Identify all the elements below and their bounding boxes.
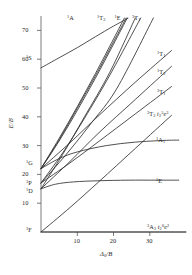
curve-0 (41, 18, 128, 68)
curve-label-right-1E: 1E (156, 178, 162, 184)
curve-label-top-3T1: 3T1 (132, 15, 140, 21)
curve-8 (41, 66, 172, 188)
curve-label-right-1T2: 1T2 (157, 69, 165, 75)
curve-label-right-3T2-config: 3T2t25e3 (147, 111, 169, 117)
free-ion-term-3F: 3F (26, 227, 32, 233)
free-ion-term-1D: 1D (26, 188, 33, 194)
term-symbol: G (28, 159, 33, 166)
curve-label-top-1T2: 1T2 (97, 15, 105, 21)
curve-1 (41, 18, 124, 169)
axis-lines (41, 16, 186, 232)
y-tick-label-40: 40 (22, 114, 29, 120)
tanabe-sugano-figure: E/B 10 20 30 40 50 60 70 10 20 30 Δ0/B 1… (0, 0, 192, 275)
free-ion-term-3P: 3P (26, 180, 32, 186)
x-tick-label-20: 20 (110, 238, 117, 244)
x-axis-title-den: /B (106, 250, 112, 257)
curve-label-ground-3A2-config: 3A2t26e2 (147, 224, 169, 230)
y-tick-label-50: 50 (22, 85, 29, 91)
y-tick-label-70: 70 (22, 27, 29, 33)
x-tick-label-30: 30 (146, 238, 153, 244)
x-tick-label-10: 10 (74, 238, 81, 244)
x-axis-ticks (77, 232, 150, 236)
term-symbol: D (28, 187, 33, 194)
curve-label-right-1A1: 1A1 (156, 137, 165, 143)
curve-10 (41, 115, 172, 232)
curve-label-right-1T1: 1T1 (157, 51, 165, 57)
curve-label-right-3T1: 3T1 (157, 89, 165, 95)
free-ion-term-1S: 1S (26, 55, 32, 61)
curve-6 (41, 18, 153, 183)
curve-label-top-1E: 1E (115, 15, 121, 21)
y-tick-label-10: 10 (22, 200, 29, 206)
x-axis-title: Δ0/B (100, 251, 112, 258)
y-axis-title: E/B (8, 103, 15, 143)
curve-label-top-1A: 1A (67, 15, 74, 21)
term-symbol: F (28, 226, 32, 233)
y-tick-label-20: 20 (22, 171, 29, 177)
y-tick-label-30: 30 (22, 143, 29, 149)
term-symbol: S (28, 54, 32, 61)
curve-9 (41, 87, 172, 183)
term-symbol: P (28, 179, 32, 186)
curve-5 (41, 18, 141, 183)
free-ion-term-1G: 1G (26, 160, 33, 166)
y-axis-ticks (37, 30, 41, 203)
